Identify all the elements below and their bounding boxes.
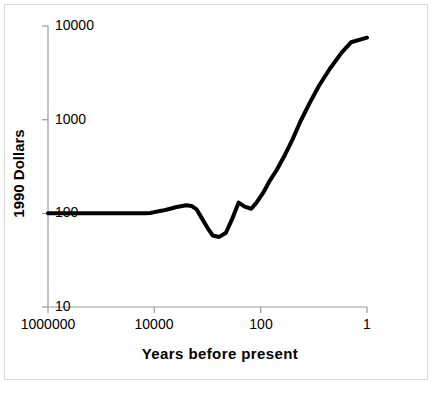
- y-tick-label-10000: 10000: [55, 17, 94, 33]
- x-tick-label-10000: 10000: [114, 316, 194, 332]
- y-tick-label-100: 100: [55, 204, 78, 220]
- chart-plot-area: 10000 1000 100 10 1000000 10000 100 1 19…: [0, 0, 434, 393]
- x-tick-label-100: 100: [228, 316, 294, 332]
- y-tick-label-10: 10: [55, 298, 71, 314]
- x-axis-ticks: [48, 307, 367, 313]
- x-axis-title: Years before present: [60, 345, 380, 362]
- axes-group: [42, 26, 367, 313]
- data-line-gdp-per-capita: [48, 38, 367, 237]
- x-tick-label-1000000: 1000000: [0, 316, 98, 332]
- y-axis-ticks: [42, 26, 48, 307]
- x-tick-label-1: 1: [347, 316, 387, 332]
- y-axis-title: 1990 Dollars: [10, 114, 27, 234]
- data-series-group: [48, 38, 367, 237]
- y-tick-label-1000: 1000: [55, 111, 86, 127]
- log-log-line-chart: [0, 0, 434, 393]
